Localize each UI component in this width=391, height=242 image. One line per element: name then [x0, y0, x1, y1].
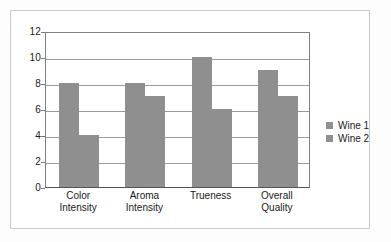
plot-area	[45, 32, 310, 188]
bar-group	[179, 33, 245, 187]
legend-item-wine-1: Wine 1	[326, 119, 380, 132]
x-category-label: Aroma Intensity	[111, 190, 177, 214]
bar-group	[46, 33, 112, 187]
x-axis-category-labels: Color Intensity Aroma Intensity Trueness…	[45, 190, 310, 224]
y-axis-tick-labels: 12 10 8 6 4 2 0	[20, 32, 41, 188]
y-tick-label: 10	[29, 53, 41, 63]
bar-wine1	[192, 57, 212, 187]
legend-swatch-icon	[326, 135, 333, 142]
legend-label: Wine 1	[338, 121, 369, 131]
x-category-line2: Quality	[244, 202, 310, 214]
bar-wine2	[79, 135, 99, 187]
bar-wine1	[258, 70, 278, 187]
x-category-label: Color Intensity	[45, 190, 111, 214]
x-category-line2: Intensity	[45, 202, 111, 214]
chart-legend: Wine 1 Wine 2	[326, 119, 380, 145]
y-tick-label: 12	[29, 27, 41, 37]
y-tick-mark	[41, 188, 45, 189]
x-category-label: Overall Quality	[244, 190, 310, 214]
x-category-line1: Trueness	[190, 190, 231, 201]
bar-wine2	[212, 109, 232, 187]
bar-wine1	[59, 83, 79, 187]
legend-item-wine-2: Wine 2	[326, 132, 380, 145]
bar-group	[245, 33, 311, 187]
bar-wine2	[278, 96, 298, 187]
legend-label: Wine 2	[338, 134, 369, 144]
chart-screenshot: 12 10 8 6 4 2 0	[0, 0, 391, 242]
bar-wine1	[125, 83, 145, 187]
x-category-line1: Color	[66, 190, 90, 201]
x-category-line2: Intensity	[111, 202, 177, 214]
bar-group	[112, 33, 178, 187]
legend-swatch-icon	[326, 122, 333, 129]
x-category-line1: Overall	[261, 190, 293, 201]
bar-wine2	[145, 96, 165, 187]
x-category-label: Trueness	[178, 190, 244, 202]
x-category-line1: Aroma	[130, 190, 159, 201]
